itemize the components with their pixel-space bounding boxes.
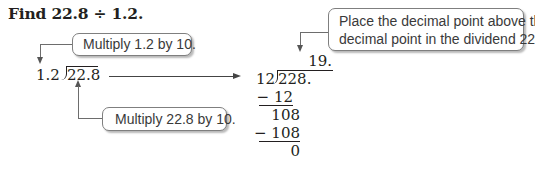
original-dividend: 22.8 — [67, 66, 100, 84]
problem-title: Find 22.8 ÷ 1.2. — [8, 4, 143, 23]
arrow-down-icon — [37, 57, 43, 64]
step-108: 108 — [250, 106, 300, 124]
callout-text: Multiply 22.8 by 10. — [115, 111, 236, 127]
callout-connector — [78, 86, 79, 118]
callout-connector — [78, 118, 102, 119]
callout-multiply-dividend: Multiply 22.8 by 10. — [102, 107, 227, 131]
ld-dividend: 228. — [278, 70, 311, 88]
transform-arrow-line — [109, 76, 234, 77]
quotient: 19. — [270, 52, 332, 70]
callout-text-line2: decimal point in the dividend 228. — [339, 30, 523, 48]
step-remainder: 0 — [250, 142, 300, 160]
division-bracket — [60, 66, 67, 80]
arrow-right-icon — [233, 73, 241, 79]
callout-connector — [40, 44, 41, 58]
callout-connector — [40, 44, 72, 45]
callout-text-line1: Place the decimal point above the — [339, 12, 523, 30]
callout-place-decimal: Place the decimal point above the decima… — [328, 8, 524, 51]
callout-multiply-divisor: Multiply 1.2 by 10. — [72, 33, 192, 56]
step-subtract-108: − 108 — [250, 124, 300, 142]
step-subtract-12: − 12 — [250, 88, 293, 106]
callout-connector — [300, 32, 301, 46]
original-divisor: 1.2 — [36, 66, 60, 84]
callout-connector — [300, 32, 328, 33]
arrow-down-icon — [297, 45, 303, 52]
